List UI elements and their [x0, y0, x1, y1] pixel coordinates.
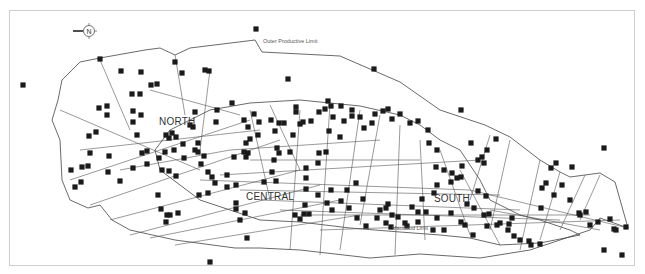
well-marker: [493, 136, 498, 141]
well-marker: [374, 215, 379, 220]
well-marker: [434, 147, 439, 152]
well-marker: [528, 242, 533, 247]
well-marker: [269, 169, 274, 174]
well-marker: [481, 212, 486, 217]
well-marker: [448, 210, 453, 215]
well-marker: [130, 165, 135, 170]
well-marker: [106, 153, 111, 158]
well-marker: [349, 107, 354, 112]
well-marker: [287, 149, 292, 154]
well-marker: [158, 206, 163, 211]
well-marker: [68, 167, 73, 172]
well-marker: [506, 221, 511, 226]
well-marker: [433, 164, 438, 169]
well-marker: [231, 154, 236, 159]
well-marker: [173, 134, 178, 139]
compass-north-letter: N: [86, 28, 91, 35]
well-marker: [325, 98, 330, 103]
well-marker: [324, 200, 329, 205]
well-marker: [369, 120, 374, 125]
well-marker: [243, 140, 248, 145]
well-marker: [171, 147, 176, 152]
well-marker: [255, 132, 260, 137]
well-marker: [212, 180, 217, 185]
well-marker: [293, 104, 298, 109]
well-marker: [306, 211, 311, 216]
well-marker: [329, 207, 334, 212]
well-marker: [308, 118, 313, 123]
well-marker: [353, 180, 358, 185]
well-marker: [587, 222, 592, 227]
outer-productive-limit-label: Outer Productive Limit: [263, 38, 318, 44]
well-marker: [293, 109, 298, 114]
well-marker: [285, 76, 290, 81]
well-marker: [619, 252, 624, 257]
well-marker: [241, 149, 246, 154]
well-marker: [484, 223, 489, 228]
well-marker: [458, 219, 463, 224]
well-marker: [20, 82, 25, 87]
well-marker: [245, 124, 250, 129]
well-marker: [468, 140, 473, 145]
well-marker: [144, 148, 149, 153]
well-marker: [377, 207, 382, 212]
well-marker: [290, 132, 295, 137]
well-marker: [93, 129, 98, 134]
well-marker: [328, 103, 333, 108]
well-marker: [180, 141, 185, 146]
well-marker: [297, 121, 302, 126]
zone-label-central: CENTRAL: [246, 191, 294, 202]
well-marker: [271, 157, 276, 162]
well-marker: [179, 70, 184, 75]
well-marker: [198, 161, 203, 166]
well-marker: [205, 190, 210, 195]
well-marker: [372, 111, 377, 116]
well-marker: [479, 154, 484, 159]
well-marker: [322, 106, 327, 111]
well-marker: [261, 179, 266, 184]
well-marker: [195, 149, 200, 154]
well-marker: [276, 120, 281, 125]
well-marker: [214, 107, 219, 112]
well-marker: [79, 164, 84, 169]
well-marker: [104, 103, 109, 108]
well-marker: [303, 186, 308, 191]
well-marker: [301, 211, 306, 216]
well-marker: [85, 163, 90, 168]
fault-lines: [60, 55, 628, 255]
well-marker: [363, 223, 368, 228]
well-marker: [407, 120, 412, 125]
well-marker: [233, 206, 238, 211]
well-marker: [559, 182, 564, 187]
well-marker: [425, 127, 430, 132]
well-marker: [224, 172, 229, 177]
well-marker: [237, 217, 242, 222]
well-marker: [360, 196, 365, 201]
well-marker: [316, 109, 321, 114]
well-marker: [509, 215, 514, 220]
well-marker: [233, 182, 238, 187]
well-marker: [338, 198, 343, 203]
well-marker: [251, 111, 256, 116]
well-marker: [86, 133, 91, 138]
well-marker: [206, 68, 211, 73]
well-marker: [104, 112, 109, 117]
well-marker: [337, 134, 342, 139]
well-marker: [138, 112, 143, 117]
well-marker: [195, 140, 200, 145]
well-marker: [458, 174, 463, 179]
well-marker: [567, 197, 572, 202]
well-marker: [449, 170, 454, 175]
well-marker: [162, 149, 167, 154]
well-marker: [395, 214, 400, 219]
well-marker: [354, 215, 359, 220]
well-marker: [505, 227, 510, 232]
well-marker: [389, 116, 394, 121]
well-marker: [471, 205, 476, 210]
well-marker: [129, 91, 134, 96]
well-marker: [268, 117, 273, 122]
well-marker: [196, 192, 201, 197]
well-marker: [583, 209, 588, 214]
north-compass-icon: N: [73, 23, 97, 39]
well-marker: [341, 118, 346, 123]
